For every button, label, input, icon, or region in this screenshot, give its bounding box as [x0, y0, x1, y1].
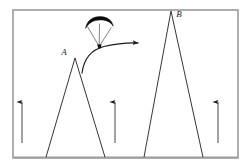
- figure-background: [0, 0, 251, 168]
- peak-b-label: B: [176, 9, 182, 19]
- figure-container: A B: [0, 0, 251, 168]
- diagram-canvas: A B: [0, 0, 251, 168]
- peak-a-label: A: [60, 47, 67, 57]
